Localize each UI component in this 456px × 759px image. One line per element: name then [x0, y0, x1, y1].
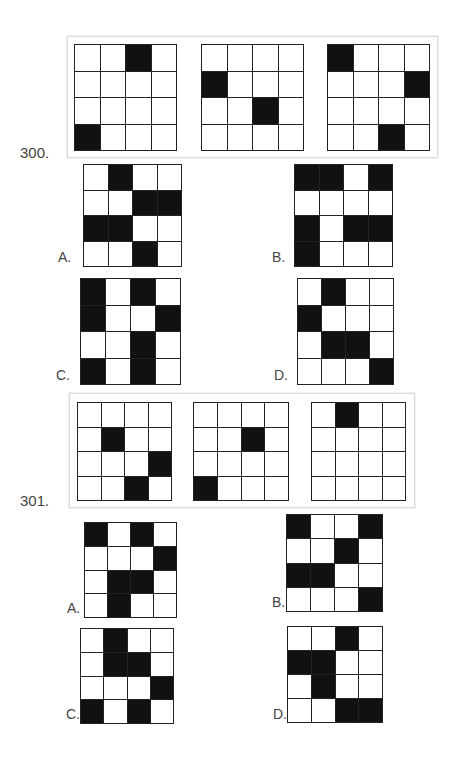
grid-cell-filled: [312, 651, 335, 674]
q301-sequence-grid-1: [77, 402, 172, 501]
grid-cell-empty: [106, 359, 130, 385]
grid-cell-empty: [85, 547, 107, 570]
grid-cell-filled: [81, 700, 103, 723]
grid-cell-empty: [104, 677, 126, 700]
q301-option-d-grid[interactable]: [287, 626, 383, 723]
grid-cell-filled: [379, 125, 404, 151]
grid-cell-empty: [106, 332, 130, 358]
grid-cell-empty: [369, 242, 393, 267]
q301-option-b-grid[interactable]: [286, 514, 383, 612]
q300-option-a-grid[interactable]: [83, 164, 182, 267]
grid-cell-empty: [359, 627, 382, 650]
grid-cell-filled: [311, 564, 334, 587]
grid-cell-filled: [158, 191, 182, 216]
q300-option-d-label[interactable]: D.: [274, 367, 288, 383]
q300-option-b-grid[interactable]: [294, 164, 393, 267]
q301-sequence-grid-2: [193, 402, 289, 501]
grid-cell-filled: [194, 477, 217, 501]
q301-option-c-label[interactable]: C.: [66, 706, 80, 722]
grid-cell-filled: [109, 165, 133, 190]
grid-cell-empty: [228, 45, 253, 71]
grid-cell-empty: [288, 627, 311, 650]
grid-cell-empty: [336, 477, 359, 501]
grid-cell-empty: [126, 98, 151, 124]
grid-cell-filled: [359, 515, 382, 538]
grid-cell-empty: [149, 477, 172, 501]
grid-cell-empty: [405, 98, 430, 124]
grid-cell-empty: [359, 539, 382, 562]
grid-cell-empty: [311, 588, 334, 611]
q301-option-c-grid[interactable]: [80, 628, 174, 724]
grid-cell-empty: [126, 125, 151, 151]
grid-cell-empty: [81, 332, 105, 358]
grid-cell-empty: [379, 72, 404, 98]
q300-option-d-grid[interactable]: [297, 278, 394, 385]
grid-cell-empty: [108, 523, 130, 546]
grid-cell-empty: [295, 191, 319, 216]
grid-cell-empty: [242, 477, 265, 501]
grid-cell-filled: [346, 332, 369, 358]
q301-option-a-grid[interactable]: [84, 522, 177, 618]
q301-option-d-label[interactable]: D.: [273, 706, 287, 722]
grid-cell-empty: [379, 45, 404, 71]
grid-cell-empty: [78, 452, 101, 476]
grid-cell-filled: [81, 306, 105, 332]
grid-cell-empty: [125, 428, 148, 452]
grid-cell-empty: [253, 72, 278, 98]
grid-cell-empty: [228, 125, 253, 151]
grid-cell-empty: [228, 72, 253, 98]
grid-cell-empty: [265, 477, 288, 501]
grid-cell-empty: [359, 452, 382, 476]
grid-cell-empty: [312, 452, 335, 476]
grid-cell-filled: [298, 306, 321, 332]
grid-cell-empty: [354, 72, 379, 98]
grid-cell-empty: [346, 279, 369, 305]
grid-cell-empty: [383, 477, 406, 501]
grid-cell-filled: [131, 571, 153, 594]
grid-cell-filled: [151, 677, 173, 700]
grid-cell-empty: [102, 477, 125, 501]
q300-sequence-grid-3: [327, 44, 430, 151]
grid-cell-empty: [336, 428, 359, 452]
grid-cell-empty: [265, 452, 288, 476]
grid-cell-empty: [202, 45, 227, 71]
grid-cell-empty: [370, 332, 393, 358]
grid-cell-empty: [154, 571, 176, 594]
grid-cell-empty: [359, 403, 382, 427]
q301-option-a-label[interactable]: A.: [67, 600, 80, 616]
grid-cell-empty: [126, 72, 151, 98]
grid-cell-empty: [128, 677, 150, 700]
grid-cell-filled: [287, 515, 310, 538]
q300-option-a-label[interactable]: A.: [58, 249, 71, 265]
q300-option-c-label[interactable]: C.: [56, 367, 70, 383]
grid-cell-filled: [369, 165, 393, 190]
grid-cell-filled: [85, 523, 107, 546]
grid-cell-filled: [202, 72, 227, 98]
grid-cell-empty: [320, 191, 344, 216]
grid-cell-empty: [370, 306, 393, 332]
grid-cell-filled: [154, 547, 176, 570]
q300-option-c-grid[interactable]: [80, 278, 181, 385]
grid-cell-filled: [336, 403, 359, 427]
grid-cell-empty: [218, 428, 241, 452]
grid-cell-empty: [320, 216, 344, 241]
grid-cell-empty: [125, 403, 148, 427]
grid-cell-empty: [106, 306, 130, 332]
grid-cell-empty: [328, 125, 353, 151]
grid-cell-empty: [287, 588, 310, 611]
grid-cell-empty: [279, 98, 304, 124]
grid-cell-empty: [106, 279, 130, 305]
q301-option-b-label[interactable]: B.: [272, 594, 285, 610]
q300-option-b-label[interactable]: B.: [272, 249, 285, 265]
grid-cell-empty: [154, 594, 176, 617]
grid-cell-filled: [328, 45, 353, 71]
grid-cell-empty: [152, 98, 177, 124]
grid-cell-empty: [312, 428, 335, 452]
grid-cell-empty: [383, 452, 406, 476]
grid-cell-filled: [131, 332, 155, 358]
grid-cell-empty: [78, 477, 101, 501]
grid-cell-filled: [242, 428, 265, 452]
grid-cell-filled: [131, 279, 155, 305]
grid-cell-empty: [156, 359, 180, 385]
grid-cell-empty: [370, 279, 393, 305]
